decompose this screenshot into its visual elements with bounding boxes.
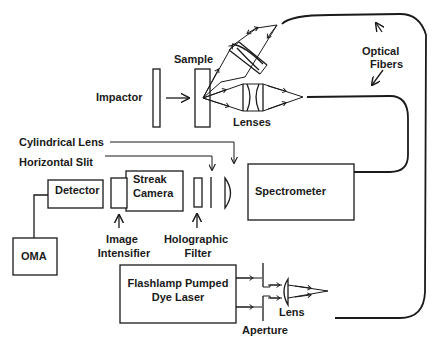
fiber-pointer-arrow-down [372, 70, 383, 85]
label-aperture: Aperture [242, 323, 288, 337]
label-dye-laser: Dye Laser [120, 290, 236, 304]
cylindrical-lens-leader [110, 142, 234, 163]
lower-collection-optics [203, 84, 303, 111]
focusing-lens [284, 279, 288, 305]
label-sample: Sample [174, 52, 213, 66]
label-image: Image [104, 232, 140, 246]
label-filter: Filter [178, 246, 218, 260]
label-fibers: Fibers [370, 57, 403, 71]
label-cylindrical-lens: Cylindrical Lens [19, 135, 104, 149]
label-oma: OMA [21, 249, 47, 263]
label-detector: Detector [55, 183, 100, 197]
detector-oma-cable [34, 195, 48, 238]
label-lens: Lens [279, 305, 305, 319]
label-flashlamp-pumped: Flashlamp Pumped [120, 276, 236, 290]
image-intensifier [111, 178, 127, 208]
cylindrical-lens [225, 178, 231, 208]
label-lenses: Lenses [233, 115, 271, 129]
label-optical: Optical [362, 44, 399, 58]
label-horizontal-slit: Horizontal Slit [19, 155, 93, 169]
label-intensifier: Intensifier [96, 246, 152, 260]
horizontal-slit-leader [105, 156, 212, 170]
experimental-setup-diagram: Impactor Sample Lenses Optical Fibers Cy… [0, 0, 440, 347]
optical-fiber-collection [307, 96, 408, 172]
label-impactor: Impactor [96, 90, 142, 104]
sample-plate [195, 69, 210, 127]
label-holographic: Holographic [160, 232, 232, 246]
impactor-plate [153, 69, 160, 127]
label-spectrometer: Spectrometer [255, 184, 326, 198]
upper-collection-optics [203, 25, 277, 98]
label-camera: Camera [133, 186, 173, 200]
holographic-filter [194, 178, 202, 207]
fiber-pointer-arrow-up [376, 23, 382, 32]
label-streak: Streak [133, 172, 167, 186]
